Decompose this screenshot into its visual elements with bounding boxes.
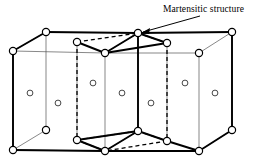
bold-bct-top-front-left <box>77 42 105 53</box>
bold-top-back-left-to-mid <box>46 32 138 33</box>
edge-depth-bottom-left <box>13 130 46 150</box>
bct-node-bottom-back-left <box>73 136 80 143</box>
figure-canvas: Martensitic structure <box>0 0 258 164</box>
bct-node-top-back-left <box>73 38 80 45</box>
face-atom-6 <box>182 80 188 86</box>
annotation-arrow <box>141 16 200 34</box>
bold-bct-bottom-front-left <box>77 140 105 151</box>
face-atom-4 <box>119 90 125 96</box>
bold-bottom-front-left-run <box>13 150 105 151</box>
face-atom-1 <box>27 90 33 96</box>
annotation-arrow-line <box>143 16 200 32</box>
bold-bct-bottom-front-right <box>167 141 199 151</box>
fcc-node-top-back-right <box>228 28 235 35</box>
face-atom-7 <box>212 90 218 96</box>
bold-bct-bottom-back-right <box>138 131 167 141</box>
fcc-node-bottom-back-right <box>228 126 235 133</box>
edge-front-top-left-span <box>13 51 105 53</box>
bold-top-back-mid-to-right <box>138 32 232 33</box>
face-atom-2 <box>55 100 61 106</box>
bct-node-top-back-right <box>163 39 170 46</box>
bold-bottom-right-diag <box>199 130 232 151</box>
fcc-node-top-front-left <box>9 47 16 54</box>
fcc-node-bottom-back-left <box>42 126 49 133</box>
bold-top-left-diag <box>13 32 46 51</box>
face-center-atoms <box>27 80 218 106</box>
fcc-node-bottom-back-mid <box>134 127 141 134</box>
crystal-structure-svg <box>0 0 258 164</box>
fcc-node-bottom-front-right <box>195 147 202 154</box>
fcc-node-top-front-right <box>195 49 202 56</box>
martensitic-structure-label: Martensitic structure <box>163 4 244 14</box>
fcc-node-bottom-front-mid <box>101 147 108 154</box>
fcc-node-top-back-left <box>42 28 49 35</box>
face-atom-5 <box>148 100 154 106</box>
face-atom-3 <box>90 80 96 86</box>
annotation-arrow-head <box>141 28 150 34</box>
fcc-node-top-back-mid <box>134 29 141 36</box>
fcc-node-bottom-front-left <box>9 146 16 153</box>
fcc-node-top-front-mid <box>101 49 108 56</box>
bold-bct-top-right-to-back <box>138 33 167 43</box>
edge-depth-top-right <box>199 32 232 53</box>
bct-node-bottom-back-right <box>163 137 170 144</box>
